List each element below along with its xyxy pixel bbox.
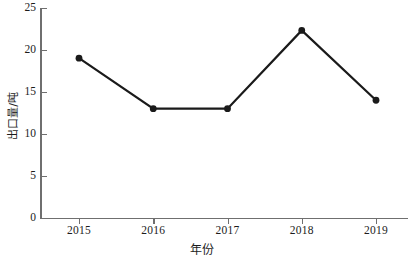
x-axis-label-2019: 2019 bbox=[346, 224, 406, 236]
y-axis-tick-25 bbox=[42, 8, 47, 9]
series-markers bbox=[76, 27, 380, 112]
x-axis-line bbox=[40, 218, 408, 220]
x-axis-title-text: 年份 bbox=[190, 243, 214, 257]
x-axis-label-2017: 2017 bbox=[198, 224, 258, 236]
y-axis-title: 出口量/吨 bbox=[4, 81, 20, 151]
plot-area: 25 20 15 10 5 0 2015 2016 2017 2018 2019… bbox=[0, 0, 415, 262]
y-axis-label-5: 5 bbox=[0, 169, 36, 181]
x-axis-label-2016: 2016 bbox=[123, 224, 183, 236]
y-axis-tick-10 bbox=[42, 134, 47, 135]
y-axis-line bbox=[40, 8, 42, 219]
y-axis-label-25: 25 bbox=[0, 1, 36, 13]
chart-figure: 25 20 15 10 5 0 2015 2016 2017 2018 2019… bbox=[0, 0, 415, 262]
y-axis-tick-15 bbox=[42, 92, 47, 93]
data-point-2015 bbox=[76, 55, 83, 62]
y-axis-label-20: 20 bbox=[0, 43, 36, 55]
data-point-2016 bbox=[150, 105, 157, 112]
y-axis-tick-20 bbox=[42, 50, 47, 51]
y-axis-label-0: 0 bbox=[0, 211, 36, 223]
data-point-2018 bbox=[298, 27, 305, 34]
data-series-layer bbox=[0, 0, 415, 262]
x-axis-label-2015: 2015 bbox=[49, 224, 109, 236]
data-point-2019 bbox=[373, 97, 380, 104]
series-line-export-volume bbox=[79, 30, 376, 108]
data-point-2017 bbox=[224, 105, 231, 112]
x-axis-label-2018: 2018 bbox=[272, 224, 332, 236]
x-axis-title: 年份 bbox=[0, 240, 415, 257]
y-axis-tick-5 bbox=[42, 176, 47, 177]
